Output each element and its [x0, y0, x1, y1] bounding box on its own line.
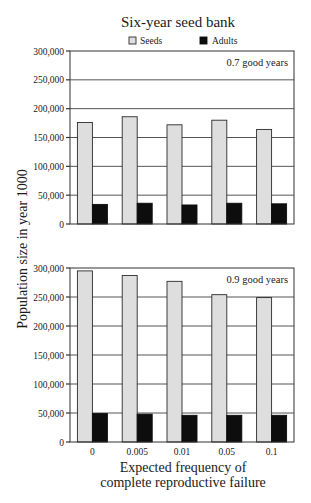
- legend-adults-label: Adults: [212, 36, 238, 46]
- y-tick-label: 250,000: [33, 75, 64, 85]
- x-tick-label: 0.1: [266, 447, 278, 457]
- seeds-bar: [122, 276, 137, 442]
- y-axis-label: Population size in year 1000: [15, 169, 30, 328]
- adults-bar: [92, 204, 107, 224]
- x-tick-label: 0.01: [174, 447, 191, 457]
- panel-label: 0.7 good years: [226, 57, 288, 68]
- panel-0.7-good-years: 050,000100,000150,000200,000250,000300,0…: [33, 47, 294, 230]
- panel-0.9-good-years: 050,000100,000150,000200,000250,000300,0…: [33, 264, 294, 448]
- adults-bar: [137, 414, 152, 442]
- y-tick-label: 150,000: [33, 351, 64, 361]
- adults-bar: [272, 415, 287, 442]
- adults-bar: [272, 204, 287, 224]
- y-tick-label: 0: [59, 220, 64, 230]
- x-tick-label: 0: [90, 447, 95, 457]
- legend-adults-swatch: [200, 37, 207, 44]
- y-tick-label: 300,000: [33, 47, 64, 57]
- x-axis-label-line2: complete reproductive failure: [100, 475, 266, 490]
- legend-seeds-label: Seeds: [140, 36, 162, 46]
- y-tick-label: 100,000: [33, 380, 64, 390]
- adults-bar: [227, 203, 242, 224]
- y-tick-label: 300,000: [33, 264, 64, 274]
- adults-bar: [182, 415, 197, 442]
- legend: Seeds Adults: [129, 36, 238, 46]
- adults-bar: [182, 205, 197, 224]
- seeds-bar: [257, 129, 272, 224]
- seeds-bar: [212, 295, 227, 442]
- adults-bar: [227, 415, 242, 442]
- y-tick-label: 250,000: [33, 293, 64, 303]
- adults-bar: [137, 203, 152, 224]
- seeds-bar: [212, 120, 227, 224]
- panel-label: 0.9 good years: [226, 274, 288, 285]
- x-tick-label: 0.005: [127, 447, 149, 457]
- y-tick-label: 200,000: [33, 322, 64, 332]
- x-tick-label: 0.05: [218, 447, 235, 457]
- y-tick-label: 200,000: [33, 104, 64, 114]
- y-tick-label: 150,000: [33, 133, 64, 143]
- seeds-bar: [167, 125, 182, 224]
- chart-title: Six-year seed bank: [121, 14, 236, 30]
- figure: Six-year seed bank Seeds Adults Populati…: [0, 0, 311, 503]
- y-tick-label: 50,000: [38, 409, 64, 419]
- seeds-bar: [77, 123, 92, 224]
- y-tick-label: 0: [59, 438, 64, 448]
- seeds-bar: [167, 281, 182, 442]
- seeds-bar: [257, 298, 272, 442]
- seeds-bar: [122, 117, 137, 224]
- legend-seeds-swatch: [129, 37, 136, 44]
- x-tick-labels: 00.0050.010.050.1: [90, 447, 278, 457]
- seeds-bar: [77, 271, 92, 442]
- adults-bar: [92, 414, 107, 442]
- y-tick-label: 50,000: [38, 191, 64, 201]
- x-axis-label-line1: Expected frequency of: [120, 460, 247, 475]
- y-tick-label: 100,000: [33, 162, 64, 172]
